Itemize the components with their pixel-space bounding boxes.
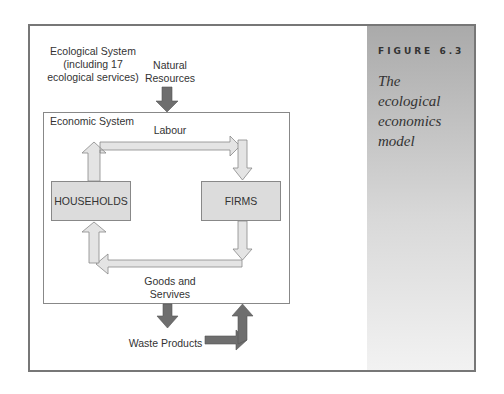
goods-to-households-arrow-icon xyxy=(82,222,106,263)
natural-resources-arrow-icon xyxy=(156,87,178,112)
goods-from-firms-arrow-icon xyxy=(233,221,252,260)
flow-arrows xyxy=(0,0,504,394)
waste-down-arrow-icon xyxy=(157,304,178,328)
goods-flow-arrow-icon xyxy=(96,254,242,274)
labour-flow-arrow-icon xyxy=(82,136,240,181)
